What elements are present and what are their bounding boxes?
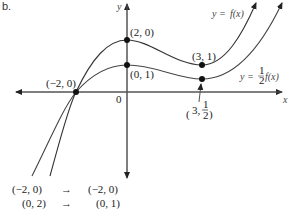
label-neg2-0: (−2, 0) bbox=[46, 77, 76, 90]
mapping-from: (0, 2) bbox=[22, 197, 46, 210]
label-half-max: (0, 1) bbox=[130, 68, 154, 81]
label-curve-f: y = f(x) bbox=[211, 8, 245, 20]
label-f-min: (3, 1) bbox=[192, 50, 216, 63]
mapping-from: (−2, 0) bbox=[12, 183, 42, 196]
mapping-row: (−2, 0) → (−2, 0) bbox=[12, 183, 118, 196]
point-neg2-0 bbox=[73, 89, 79, 95]
curve-half-f bbox=[32, 3, 282, 176]
mapping-to: (0, 1) bbox=[96, 197, 120, 210]
graph-diagram: b. x y 0 (−2, 0) (2, 0) (0, 1) (3, 1) ( … bbox=[0, 0, 288, 212]
label-f-max: (2, 0) bbox=[130, 26, 154, 39]
pointer-arrow bbox=[199, 84, 201, 102]
mapping-arrow: → bbox=[61, 197, 72, 209]
mapping-table: (−2, 0) → (−2, 0) (0, 2) → (0, 1) bbox=[12, 183, 120, 210]
label-curve-half-den: 2 bbox=[259, 74, 265, 86]
mapping-arrow: → bbox=[61, 183, 72, 195]
label-curve-f-func: f(x) bbox=[230, 8, 245, 20]
point-f-min bbox=[199, 62, 205, 68]
paren-left: ( bbox=[186, 108, 190, 121]
point-half-min bbox=[199, 76, 205, 82]
label-curve-half-func: f(x) bbox=[265, 71, 280, 83]
part-label: b. bbox=[2, 0, 11, 12]
mapping-to: (−2, 0) bbox=[88, 183, 118, 196]
origin-label: 0 bbox=[116, 93, 122, 105]
label-half-min-den: 2 bbox=[203, 109, 209, 121]
paren-right: ) bbox=[209, 108, 213, 121]
mapping-row: (0, 2) → (0, 1) bbox=[22, 197, 120, 210]
label-curve-f-prefix: y = bbox=[211, 8, 226, 19]
label-half-min-x: 3, bbox=[192, 104, 201, 116]
y-axis-label: y bbox=[116, 1, 122, 12]
label-curve-half-prefix: y = bbox=[239, 71, 254, 82]
label-curve-half-f: y = 1 2 f(x) bbox=[239, 64, 280, 86]
x-axis-label: x bbox=[282, 94, 288, 105]
